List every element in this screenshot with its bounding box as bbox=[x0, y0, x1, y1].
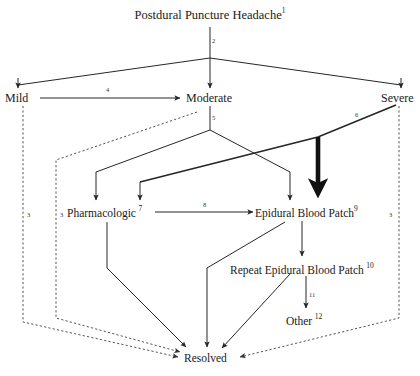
edge-moderate-to-resolved-dotted bbox=[56, 112, 197, 352]
node-repeat-epidural-blood-patch-label: Repeat Epidural Blood Patch bbox=[230, 264, 364, 276]
edge-number-5: 5 bbox=[212, 115, 215, 122]
node-resolved: Resolved bbox=[184, 353, 227, 365]
node-mild-label: Mild bbox=[5, 91, 28, 105]
edge-moderate-branch bbox=[96, 106, 290, 200]
node-pharmacologic-label: Pharmacologic bbox=[67, 207, 136, 219]
edge-ebp-to-resolved bbox=[207, 222, 285, 347]
node-other-label: Other bbox=[286, 315, 312, 327]
node-other: Other12 bbox=[286, 314, 322, 327]
edge-split-to-severe bbox=[210, 58, 401, 88]
edge-severe-to-pharmacologic bbox=[140, 105, 396, 200]
node-severe: Severe bbox=[381, 92, 414, 104]
edge-number-8: 8 bbox=[203, 202, 206, 209]
node-mild: Mild bbox=[5, 92, 28, 104]
node-repeat-epidural-blood-patch-sup: 10 bbox=[366, 261, 374, 270]
node-epidural-blood-patch-sup: 9 bbox=[354, 204, 358, 213]
edge-number-3-mild: 3 bbox=[27, 212, 30, 219]
node-repeat-epidural-blood-patch: Repeat Epidural Blood Patch10 bbox=[230, 263, 374, 276]
node-pdph-label: Postdural Puncture Headache bbox=[135, 8, 282, 22]
edge-number-4: 4 bbox=[106, 87, 109, 94]
node-pdph: Postdural Puncture Headache1 bbox=[0, 8, 420, 22]
node-pharmacologic: Pharmacologic7 bbox=[67, 206, 142, 219]
node-severe-label: Severe bbox=[381, 91, 414, 105]
edge-number-2: 2 bbox=[212, 38, 215, 45]
edge-mild-to-resolved-dotted bbox=[23, 106, 178, 357]
node-pdph-sup: 1 bbox=[282, 6, 286, 15]
edge-split-to-mild bbox=[18, 58, 210, 88]
node-other-sup: 12 bbox=[315, 312, 323, 321]
edge-rebp-to-resolved bbox=[222, 274, 290, 348]
node-moderate: Moderate bbox=[186, 92, 232, 104]
diagram-canvas: Postdural Puncture Headache1 Mild Modera… bbox=[0, 0, 420, 376]
edge-number-11: 11 bbox=[309, 292, 315, 299]
edge-number-6: 6 bbox=[355, 112, 358, 119]
flowchart-edges bbox=[0, 0, 420, 376]
edge-number-3-severe: 3 bbox=[389, 212, 392, 219]
node-epidural-blood-patch: Epidural Blood Patch9 bbox=[255, 206, 358, 219]
node-pharmacologic-sup: 7 bbox=[138, 204, 142, 213]
edge-number-3-moderate: 3 bbox=[60, 212, 63, 219]
node-epidural-blood-patch-label: Epidural Blood Patch bbox=[255, 207, 354, 219]
edge-pharmacologic-to-resolved bbox=[107, 222, 186, 347]
node-moderate-label: Moderate bbox=[186, 91, 232, 105]
node-resolved-label: Resolved bbox=[184, 352, 227, 364]
